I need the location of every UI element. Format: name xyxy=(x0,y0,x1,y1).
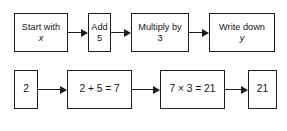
arrow-head xyxy=(202,29,209,37)
arrow-right-icon-1 xyxy=(68,28,88,37)
arrow-head xyxy=(81,29,88,37)
arrow-head xyxy=(153,86,160,94)
box-write-down-y: Write down y xyxy=(209,13,275,52)
arrow-shaft xyxy=(68,32,82,34)
diagram-canvas: Start with x Add 5 Multiply by 3 Write d… xyxy=(0,0,287,131)
arrow-right-icon-5 xyxy=(132,85,160,94)
box-line-1: Write down xyxy=(219,22,265,33)
arrow-right-icon-4 xyxy=(38,85,67,94)
worked-example-row: 2 2 + 5 = 7 7 × 3 = 21 21 xyxy=(14,70,277,109)
box-line-2: 5 xyxy=(97,33,102,44)
box-text: 2 xyxy=(23,83,29,95)
arrow-head xyxy=(124,29,131,37)
arrow-shaft xyxy=(189,32,203,34)
arrow-head xyxy=(241,86,248,94)
arrow-head xyxy=(60,86,67,94)
box-line-2: 3 xyxy=(157,33,162,44)
box-line-2-variable: y xyxy=(240,33,245,44)
arrow-right-icon-2 xyxy=(111,28,131,37)
arrow-shaft xyxy=(132,89,154,91)
box-multiplication-step: 7 × 3 = 21 xyxy=(160,70,225,109)
box-text: 21 xyxy=(257,83,268,95)
box-line-2-variable: x xyxy=(39,33,44,44)
box-text: 2 + 5 = 7 xyxy=(79,83,119,95)
box-text: 7 × 3 = 21 xyxy=(170,83,216,95)
box-multiply-by-3: Multiply by 3 xyxy=(131,13,189,52)
arrow-shaft xyxy=(38,89,61,91)
arrow-shaft xyxy=(111,32,125,34)
box-addition-step: 2 + 5 = 7 xyxy=(67,70,132,109)
box-output-value: 21 xyxy=(248,70,277,109)
box-line-1: Add xyxy=(91,22,107,33)
box-start-with-x: Start with x xyxy=(14,13,68,52)
box-line-1: Start with xyxy=(22,22,60,33)
function-machine-row: Start with x Add 5 Multiply by 3 Write d… xyxy=(14,13,275,52)
box-add-5: Add 5 xyxy=(88,13,111,52)
box-input-value: 2 xyxy=(14,70,38,109)
arrow-right-icon-6 xyxy=(225,85,248,94)
arrow-shaft xyxy=(225,89,242,91)
box-line-1: Multiply by xyxy=(138,22,181,33)
arrow-right-icon-3 xyxy=(189,28,209,37)
